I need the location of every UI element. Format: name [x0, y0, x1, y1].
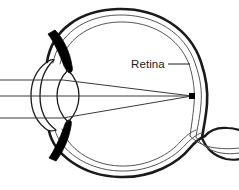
iris-upper [48, 30, 72, 73]
sclera-outer-wall [47, 9, 207, 177]
eye-cross-section-svg: Retina [0, 0, 239, 190]
retina-label: Retina [131, 58, 165, 70]
cornea [31, 60, 56, 131]
eye-diagram: Retina [0, 0, 239, 190]
optic-nerve [190, 128, 239, 160]
focal-point [189, 93, 195, 99]
light-rays [0, 80, 192, 118]
retina-label-group: Retina [131, 58, 190, 70]
